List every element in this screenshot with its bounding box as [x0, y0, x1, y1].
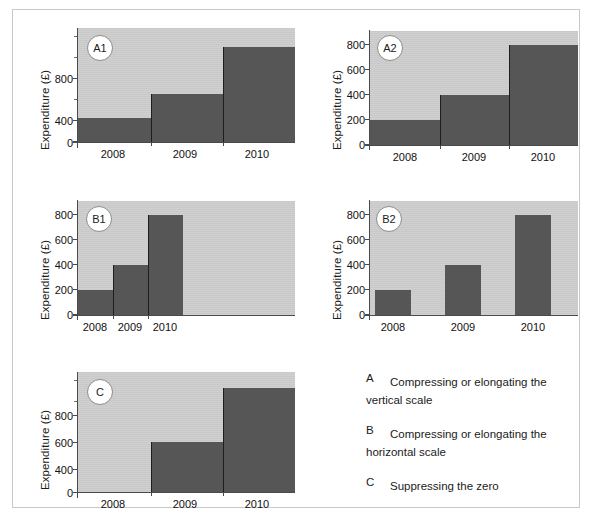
panel-b2-xtick-label: 2008 — [369, 321, 417, 333]
panel-b1-ytick-label: 0 — [41, 309, 73, 321]
panel-b1-ytick — [73, 214, 77, 215]
legend-text-b: Compressing or elongating the horizontal… — [366, 428, 547, 458]
panel-a1-bar-2010 — [223, 47, 295, 142]
panel-b2-ytick — [365, 264, 369, 265]
panel-a2-badge: A2 — [377, 35, 403, 61]
panel-b2-ytick-label: 200 — [333, 284, 365, 296]
panel-a2-ytick-label: 200 — [333, 114, 365, 126]
panel-a2-ytick-label: 0 — [333, 139, 365, 151]
panel-b1-xtick — [148, 315, 149, 319]
panel-a1-x-axis — [73, 142, 295, 143]
panel-a1-bar-divider — [151, 94, 152, 142]
panel-a1-ytick-label: 0 — [41, 137, 73, 149]
panel-a2-xtick — [440, 145, 441, 149]
panel-a2-xtick-label: 2008 — [381, 151, 429, 163]
panel-a2-bar-2009 — [440, 95, 509, 145]
panel-b2-ytick-label: 400 — [333, 259, 365, 271]
panel-a2: Expenditure (£) 800 600 400 200 0 2008 2… — [306, 10, 581, 178]
panel-c-xtick — [151, 492, 152, 496]
legend-key-a: A — [366, 372, 380, 384]
panel-c-ytick-label: 400 — [41, 464, 73, 476]
panel-b1-bar-2010 — [148, 215, 183, 315]
panel-a2-ytick-label: 800 — [333, 39, 365, 51]
panel-b1-y-axis-title: Expenditure (£) — [39, 240, 51, 320]
panel-c-xtick-label: 2009 — [161, 498, 209, 510]
panel-c-ytick — [73, 415, 77, 416]
panel-b2-ytick — [365, 214, 369, 215]
legend-text-a: Compressing or elongating the vertical s… — [366, 376, 547, 406]
panel-a1-ytick-minor — [74, 99, 77, 100]
panel-c-ytick-label: 0 — [41, 487, 73, 499]
panel-a1-ytick-minor — [74, 57, 77, 58]
panel-a1-ytick — [73, 120, 77, 121]
panel-a2-ytick — [365, 119, 369, 120]
panel-b2-ytick-label: 600 — [333, 234, 365, 246]
panel-a2-ytick — [365, 44, 369, 45]
panel-a1-ytick-label: 400 — [41, 115, 73, 127]
panel-b1: Expenditure (£) 800 600 400 200 0 2008 2… — [13, 178, 297, 346]
panel-a2-ytick — [365, 69, 369, 70]
panel-c: Expenditure (£) 800 600 400 0 2008 2009 … — [13, 346, 343, 509]
panel-a1: Expenditure (£) 800 400 0 2008 2009 2010… — [13, 10, 297, 178]
panel-a2-ytick-label: 600 — [333, 64, 365, 76]
panel-a2-bar-divider — [440, 95, 441, 145]
panel-b1-bar-2008 — [78, 290, 113, 315]
panel-b1-bar-divider — [148, 215, 149, 315]
panel-a2-bar-2008 — [370, 120, 440, 145]
panel-a1-badge: A1 — [87, 35, 113, 61]
panel-c-bar-2010 — [223, 388, 295, 492]
legend-item-b: B Compressing or elongating the horizont… — [366, 424, 581, 460]
panel-c-xtick-label: 2008 — [89, 498, 137, 510]
panel-a1-ytick-label: 800 — [41, 73, 73, 85]
panel-b2-x-axis — [365, 315, 578, 316]
panel-b2: Expenditure (£) 800 600 400 200 0 2008 2… — [306, 178, 581, 346]
panel-a1-bar-2008 — [78, 118, 151, 142]
panel-b1-ytick-label: 200 — [41, 284, 73, 296]
panel-b1-ytick — [73, 289, 77, 290]
panel-c-x-axis — [73, 492, 295, 493]
panel-b1-xtick-label: 2010 — [141, 321, 189, 333]
panel-b2-bar-2008 — [375, 290, 411, 315]
panel-a1-xtick-label: 2009 — [161, 148, 209, 160]
panel-b1-bar-2009 — [113, 265, 148, 315]
panel-b1-bar-divider — [113, 265, 114, 315]
panel-c-ytick-minor — [74, 401, 77, 402]
panel-a1-xtick — [223, 142, 224, 146]
panel-a2-xtick-label: 2009 — [450, 151, 498, 163]
panel-b1-xtick — [113, 315, 114, 319]
panel-c-xtick-label: 2010 — [233, 498, 281, 510]
panel-b2-ytick — [365, 289, 369, 290]
panel-a2-ytick — [365, 94, 369, 95]
legend-item-c: C Suppressing the zero — [366, 476, 581, 494]
panel-a1-bar-2009 — [151, 94, 223, 142]
panel-b1-ytick-label: 800 — [41, 209, 73, 221]
legend-key-c: C — [366, 476, 380, 488]
legend-item-a: A Compressing or elongating the vertical… — [366, 372, 581, 408]
panel-a2-bar-divider — [509, 45, 510, 145]
panel-a2-xtick-label: 2010 — [519, 151, 567, 163]
panel-c-bar-divider — [151, 442, 152, 492]
panel-a1-xtick — [151, 142, 152, 146]
panel-b2-ytick-label: 0 — [333, 309, 365, 321]
panel-a1-ytick-minor — [74, 36, 77, 37]
panel-a1-xtick-label: 2010 — [233, 148, 281, 160]
panel-c-ytick-minor — [74, 380, 77, 381]
panel-b2-ytick — [365, 239, 369, 240]
panel-a2-bar-2010 — [509, 45, 578, 145]
panel-a2-xtick — [509, 145, 510, 149]
panel-b2-bar-2009 — [445, 265, 481, 315]
panel-b2-y-axis-title: Expenditure (£) — [331, 240, 343, 320]
panel-c-badge: C — [87, 379, 113, 405]
figure-frame: Expenditure (£) 800 400 0 2008 2009 2010… — [12, 9, 580, 508]
panel-a2-ytick-label: 400 — [333, 89, 365, 101]
panel-b2-xtick-label: 2009 — [439, 321, 487, 333]
panel-b1-ytick-label: 600 — [41, 234, 73, 246]
panel-c-ytick-label: 600 — [41, 437, 73, 449]
panel-a1-xtick-label: 2008 — [89, 148, 137, 160]
panel-b2-bar-2010 — [515, 215, 551, 315]
panel-c-ytick — [73, 469, 77, 470]
legend-text-c: Suppressing the zero — [390, 480, 499, 492]
panel-b2-xtick-label: 2010 — [509, 321, 557, 333]
panel-c-ytick-label: 800 — [41, 410, 73, 422]
panel-c-bar-2009 — [151, 442, 223, 492]
